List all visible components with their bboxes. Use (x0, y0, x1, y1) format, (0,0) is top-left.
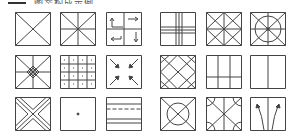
square-star-diamond-center-icon (15, 55, 51, 89)
square-circle-x-icon (160, 97, 196, 131)
square-diverging-arrows-icon (250, 97, 286, 131)
square-double-cross-lines-icon (160, 12, 196, 46)
square-lattice-diamonds-icon (160, 55, 196, 89)
header-text: 图案构成示例 (34, 0, 94, 4)
square-center-dot-icon (60, 97, 96, 131)
header: 图案构成示例 (8, 0, 94, 4)
square-two-column-split-icon (250, 55, 286, 89)
square-horizontal-bands-dashed-icon (106, 97, 142, 131)
square-corner-arcs-icon (206, 97, 242, 131)
square-x-band-icon (15, 97, 51, 131)
square-quadrant-arrows-icon (106, 12, 142, 46)
square-eight-division-icon (60, 12, 96, 46)
square-circle-star-icon (250, 12, 286, 46)
square-diamond-cross-icon (206, 12, 242, 46)
square-4x4-dotted-grid-icon (60, 55, 96, 89)
square-three-column-split-icon (206, 55, 242, 89)
header-bar (8, 2, 26, 4)
square-corner-inward-arrows-icon (106, 55, 142, 89)
square-diagonals-icon (15, 12, 51, 46)
